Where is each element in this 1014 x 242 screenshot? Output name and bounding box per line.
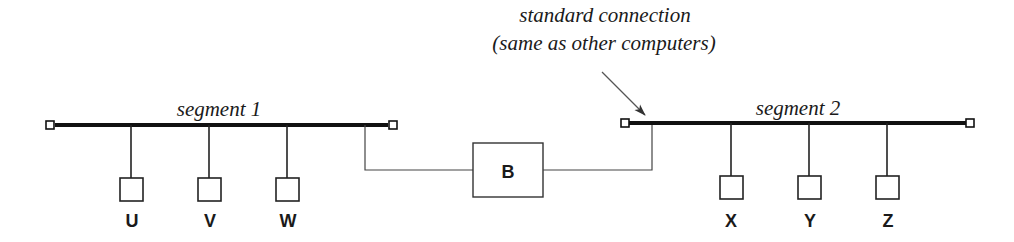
bridge-link-left	[365, 125, 473, 170]
bridge-link-right	[543, 124, 652, 170]
segment-2: segment 2 X Y Z	[621, 96, 974, 231]
annotation-arrow-icon	[602, 72, 645, 115]
computer-box-icon	[198, 178, 221, 201]
segment-1-label: segment 1	[177, 97, 262, 121]
computer-box-icon	[276, 178, 299, 201]
segment-2-left-terminator-icon	[621, 119, 629, 127]
computer-label: X	[725, 211, 737, 231]
computer-w: W	[276, 125, 299, 231]
segment-1: segment 1 U V W	[46, 97, 397, 231]
lan-bridge-diagram: standard connection (same as other compu…	[0, 0, 1014, 242]
computer-box-icon	[720, 176, 743, 199]
computer-u: U	[120, 125, 143, 231]
computer-y: Y	[798, 123, 821, 231]
computer-box-icon	[798, 176, 821, 199]
segment-1-right-terminator-icon	[389, 121, 397, 129]
segment-1-left-terminator-icon	[46, 121, 54, 129]
computer-label: V	[204, 211, 216, 231]
computer-label: U	[126, 211, 139, 231]
computer-label: Z	[883, 211, 894, 231]
segment-2-label: segment 2	[756, 96, 841, 120]
computer-label: W	[280, 211, 297, 231]
annotation-line-1: standard connection	[519, 3, 690, 27]
annotation-line-2: (same as other computers)	[492, 31, 715, 55]
computer-box-icon	[120, 178, 143, 201]
computer-v: V	[198, 125, 221, 231]
annotation: standard connection (same as other compu…	[492, 3, 715, 115]
computer-box-icon	[876, 176, 899, 199]
computer-x: X	[720, 123, 743, 231]
computer-z: Z	[876, 123, 899, 231]
segment-2-right-terminator-icon	[966, 119, 974, 127]
computer-label: Y	[804, 211, 816, 231]
bridge-label: B	[502, 162, 515, 182]
bridge: B	[365, 124, 652, 197]
